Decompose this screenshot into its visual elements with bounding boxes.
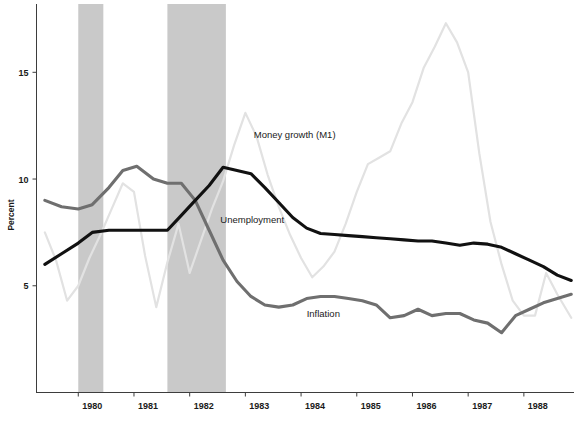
axis-group [33, 4, 575, 397]
x-tick-label: 1980 [82, 401, 102, 411]
y-tick-labels: 51015 [18, 68, 28, 291]
series-annotation-unemployment: Unemployment [220, 214, 284, 225]
x-tick-labels: 198019811982198319841985198619871988 [82, 401, 548, 411]
x-tick-label: 1981 [138, 401, 158, 411]
x-tick-label: 1987 [472, 401, 492, 411]
y-axis-title: Percent [6, 199, 16, 230]
x-tick-label: 1986 [416, 401, 436, 411]
y-tick-label: 5 [23, 281, 28, 291]
x-tick-label: 1984 [305, 401, 325, 411]
y-tick-marks [33, 72, 37, 285]
chart-canvas: 51015 1980198119821983198419851986198719… [0, 0, 577, 424]
x-tick-label: 1985 [361, 401, 381, 411]
y-tick-label: 15 [18, 68, 28, 78]
x-tick-label: 1982 [194, 401, 214, 411]
economic-indicators-chart: 51015 1980198119821983198419851986198719… [0, 0, 577, 424]
y-tick-label: 10 [18, 175, 28, 185]
x-tick-marks [78, 393, 524, 397]
x-tick-label: 1988 [528, 401, 548, 411]
x-tick-label: 1983 [249, 401, 269, 411]
series-annotation-inflation: Inflation [307, 308, 340, 319]
series-annotation-money-growth-m1: Money growth (M1) [254, 129, 336, 140]
series-annotations: Money growth (M1)UnemploymentInflation [220, 129, 340, 318]
series-group [45, 23, 571, 333]
